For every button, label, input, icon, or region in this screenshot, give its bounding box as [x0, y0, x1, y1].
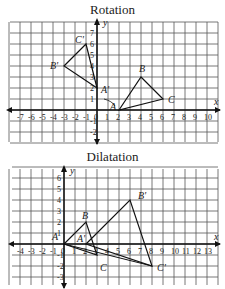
- x-tick-label: 11: [182, 247, 190, 256]
- label-C: C: [100, 262, 107, 273]
- y-tick-label: 4: [57, 196, 61, 205]
- x-tick-label: 3: [127, 113, 131, 122]
- label-B-prime: B': [50, 60, 59, 71]
- y-axis-arrow-up: [94, 18, 100, 25]
- label-B: B: [139, 63, 145, 74]
- y-tick-label: 1: [90, 95, 94, 104]
- y-tick-label: 6: [57, 174, 61, 183]
- x-tick-label: -5: [39, 113, 46, 122]
- x-tick-label: 12: [193, 247, 201, 256]
- y-tick-label: 6: [90, 40, 94, 49]
- label-C: C: [168, 94, 175, 105]
- y-axis-label: y: [102, 17, 108, 28]
- x-tick-label: 13: [204, 247, 212, 256]
- rotation-graph: x y -7-6-5-4-3-2-1012345678910-2-1123456…: [0, 0, 225, 145]
- label-A-prime: A': [100, 84, 110, 95]
- label-B: B: [82, 210, 88, 221]
- x-tick-label: 7: [138, 247, 142, 256]
- x-tick-label: 8: [182, 113, 186, 122]
- y-tick-label: 2: [57, 218, 61, 227]
- label-A: A: [51, 231, 59, 242]
- label-C-prime: C': [75, 34, 85, 45]
- x-tick-label: 2: [116, 113, 120, 122]
- x-tick-label: 5: [149, 113, 153, 122]
- y-axis-arrow-up: [61, 165, 67, 172]
- x-axis-label: x: [213, 231, 219, 242]
- x-tick-label: -3: [28, 247, 35, 256]
- x-tick-label: 10: [171, 247, 179, 256]
- y-tick-label: 3: [57, 207, 61, 216]
- y-tick-label: -2: [57, 262, 64, 271]
- y-tick-label: 5: [57, 185, 61, 194]
- y-tick-label: -3: [57, 273, 64, 282]
- x-tick-label: -1: [50, 247, 57, 256]
- x-tick-label: 6: [160, 113, 164, 122]
- x-tick-label: 9: [160, 247, 164, 256]
- x-tick-label: 4: [138, 113, 142, 122]
- x-tick-label: 9: [193, 113, 197, 122]
- y-axis-arrow-down: [61, 283, 67, 289]
- y-tick-label: 7: [90, 29, 94, 38]
- y-tick-label: -1: [57, 251, 64, 260]
- x-tick-label: -4: [50, 113, 57, 122]
- x-tick-label: 8: [149, 247, 153, 256]
- label-C-prime: C': [157, 262, 167, 273]
- label-B-prime: B': [138, 190, 147, 201]
- x-tick-label: -2: [72, 113, 79, 122]
- x-tick-label: -6: [28, 113, 35, 122]
- grid: [9, 167, 218, 285]
- y-tick-label: -1: [90, 117, 97, 126]
- y-tick-label: -2: [90, 128, 97, 137]
- x-tick-label: -3: [61, 113, 68, 122]
- x-tick-label: -2: [39, 247, 46, 256]
- label-A-prime: A': [76, 233, 86, 244]
- x-tick-label: -7: [17, 113, 24, 122]
- x-tick-label: 7: [171, 113, 175, 122]
- y-axis-label: y: [69, 165, 75, 176]
- x-tick-label: -1: [83, 113, 90, 122]
- x-axis-label: x: [213, 96, 219, 107]
- label-A: A: [109, 101, 117, 112]
- y-tick-label: 5: [90, 51, 94, 60]
- dilatation-graph: x y -4-3-2-1012345678910111213-3-2-11234…: [0, 145, 225, 289]
- x-tick-label: -4: [17, 247, 24, 256]
- grid: [9, 22, 218, 143]
- x-tick-label: 10: [204, 113, 212, 122]
- x-tick-label: 1: [105, 113, 109, 122]
- x-tick-label: 6: [127, 247, 131, 256]
